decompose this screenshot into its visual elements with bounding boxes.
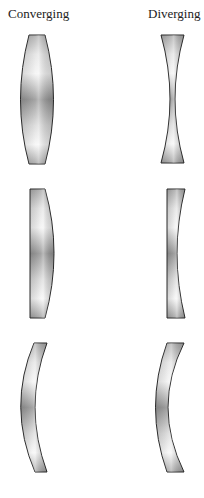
plano-convex-lens (30, 189, 54, 318)
plano-concave-lens (167, 189, 185, 318)
biconvex-lens (21, 35, 54, 164)
biconcave-lens (161, 35, 184, 163)
concave-meniscus-lens (156, 343, 185, 472)
lens-diagram (0, 0, 204, 498)
convex-meniscus-lens (21, 343, 47, 472)
